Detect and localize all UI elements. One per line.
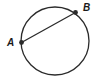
point-a-label: A (6, 37, 14, 48)
point-b-label: B (83, 2, 90, 13)
circle-chord-diagram: A B (0, 0, 96, 79)
geometry-figure: A B (0, 0, 96, 79)
point-b-dot (73, 10, 78, 15)
chord-ab (22, 13, 76, 43)
point-a-dot (19, 40, 24, 45)
circle-outline (21, 7, 89, 75)
